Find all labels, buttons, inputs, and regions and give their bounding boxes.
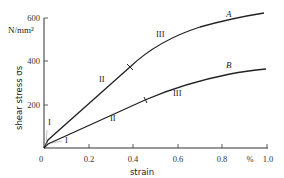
x-tick-label-0.2: 0.2 xyxy=(84,154,95,164)
y-tick-label-200: 200 xyxy=(27,100,40,110)
curve-b-region-ii: II xyxy=(110,113,116,123)
curve-b xyxy=(44,69,266,148)
curve-a xyxy=(44,13,264,148)
curve-b-region-i: I xyxy=(65,135,68,145)
y-tick-label-600: 600 xyxy=(27,13,40,23)
curve-b-region-iii: III xyxy=(173,88,182,98)
x-tick-label-0: 0 xyxy=(39,154,43,164)
y-unit-label: N/mm² xyxy=(8,25,34,35)
curve-a-region-i: I xyxy=(48,117,51,127)
chart-canvas: 600 400 200 N/mm² shear stress σs 0 0.2 … xyxy=(0,0,284,178)
curve-a-region-ii: II xyxy=(99,74,105,84)
x-tick-label-0.8: 0.8 xyxy=(217,154,228,164)
curve-b-label: B xyxy=(226,60,232,70)
y-tick-label-400: 400 xyxy=(27,56,40,66)
x-tick-label-0.6: 0.6 xyxy=(173,154,184,164)
x-tick-label-0.4: 0.4 xyxy=(128,154,139,164)
x-axis-title: strain xyxy=(130,167,154,177)
curve-a-region-iii: III xyxy=(156,29,165,39)
x-unit-label: % xyxy=(246,154,253,164)
x-tick-label-1.0: 1.0 xyxy=(263,154,274,164)
curve-a-label: A xyxy=(225,9,232,19)
y-axis-title: shear stress σs xyxy=(14,65,24,130)
